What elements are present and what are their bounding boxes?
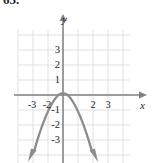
x-tick-label-2: 2 [88,100,98,111]
x-tick-label-neg3: -3 [25,100,39,111]
parabola-plot: y x -3 -2 2 3 3 2 1 -1 -2 -3 [0,12,154,163]
y-tick-label-1: 1 [50,75,60,86]
plot-svg [0,12,154,163]
y-axis-label: y [62,14,67,25]
exercise-number: 65. [3,0,19,6]
y-tick-label-neg2: -2 [46,120,60,131]
y-tick-label-3: 3 [50,45,60,56]
grid-lines [18,30,130,163]
x-tick-label-3: 3 [103,100,113,111]
x-axis-label: x [140,100,145,111]
figure-root: 65. [0,0,154,163]
y-tick-label-neg1: -1 [46,105,60,116]
y-tick-label-2: 2 [50,60,60,71]
x-axis-arrowhead [139,92,147,99]
y-tick-label-neg3: -3 [46,135,60,146]
